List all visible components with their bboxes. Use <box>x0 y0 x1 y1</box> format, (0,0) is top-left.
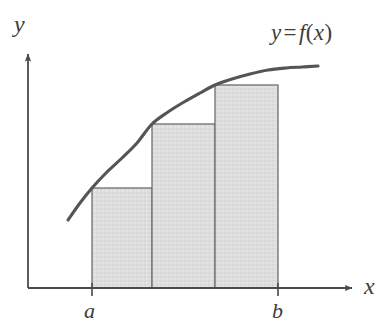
riemann-rect-3 <box>215 85 278 288</box>
riemann-rect-1 <box>92 188 152 288</box>
function-label-var: y <box>271 20 282 45</box>
function-label: y=f(x) <box>271 21 333 44</box>
figure-canvas <box>0 0 392 333</box>
riemann-rect-2 <box>152 124 215 288</box>
function-label-name: f <box>299 20 306 45</box>
riemann-rectangles <box>92 85 278 288</box>
y-axis-label: y <box>14 12 25 36</box>
function-label-arg: x <box>314 20 325 45</box>
x-axis-label: x <box>364 274 375 298</box>
function-label-close-paren: ) <box>324 20 332 45</box>
upper-limit-label: b <box>272 300 283 322</box>
function-label-equals: = <box>282 20 299 45</box>
function-label-open-paren: ( <box>306 20 314 45</box>
lower-limit-label: a <box>84 300 95 322</box>
riemann-sum-figure: y x a b y=f(x) <box>0 0 392 333</box>
